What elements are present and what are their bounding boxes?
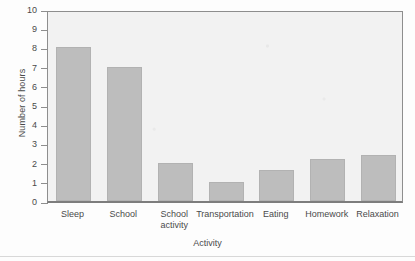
y-tick-label: 0 xyxy=(16,198,37,207)
y-tick-label: 8 xyxy=(16,44,37,53)
x-tick-label-line: activity xyxy=(135,220,213,231)
y-tick-label: 5 xyxy=(16,102,37,111)
x-axis-title: Activity xyxy=(0,238,415,248)
y-tick-label: 9 xyxy=(16,25,37,34)
x-tick-label-line: Relaxation xyxy=(339,209,415,220)
bar xyxy=(158,163,193,201)
y-tick-label: 7 xyxy=(16,64,37,73)
plot-area xyxy=(47,11,403,203)
y-tick-label: 2 xyxy=(16,160,37,169)
x-tick-label: Relaxation xyxy=(339,209,415,220)
y-tick-label: 6 xyxy=(16,83,37,92)
y-tick-label: 1 xyxy=(16,179,37,188)
footer-rule xyxy=(0,256,415,257)
bar xyxy=(107,67,142,201)
bar-chart-figure: Number of hours 012345678910 SleepSchool… xyxy=(0,0,415,261)
y-tick-label: 3 xyxy=(16,140,37,149)
bar xyxy=(361,155,396,201)
y-tick-label: 10 xyxy=(16,6,37,15)
bar xyxy=(56,47,91,201)
bar xyxy=(259,170,294,201)
y-tick-label: 4 xyxy=(16,121,37,130)
bar xyxy=(209,182,244,201)
paper-texture xyxy=(48,12,402,201)
bar xyxy=(310,159,345,201)
